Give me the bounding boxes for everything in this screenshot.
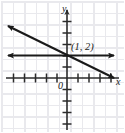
x-axis-label: x [115,76,121,87]
coordinate-graph-figure: y x 0 (1, 2) [0,0,125,133]
origin-label: 0 [58,80,63,91]
coordinate-plane-svg: y x 0 (1, 2) [0,0,125,133]
point-coordinate-label: (1, 2) [71,41,94,53]
y-axis-label: y [61,3,67,14]
